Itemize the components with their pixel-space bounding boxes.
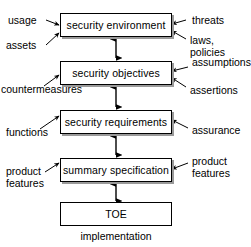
- connector-assets-to-environment: [46, 33, 59, 45]
- box-security-requirements[interactable]: security requirements: [60, 110, 172, 134]
- box-security-objectives[interactable]: security objectives: [60, 61, 172, 85]
- connector-threats-to-environment: [172, 20, 186, 24]
- box-toe[interactable]: TOE: [60, 202, 172, 226]
- box-security-requirements-label: security requirements: [65, 117, 167, 128]
- connector-laws-policies-to-environment: [172, 31, 186, 39]
- label-product-features-left: product features: [6, 165, 44, 189]
- connector-product-features-right-to-summary: [172, 163, 188, 169]
- box-summary-specification[interactable]: summary specification: [60, 158, 172, 182]
- label-implementation: implementation: [60, 230, 172, 242]
- label-threats: threats: [192, 14, 224, 26]
- box-security-objectives-label: security objectives: [72, 68, 160, 79]
- label-laws-policies: laws, policies: [190, 34, 251, 58]
- label-countermeasures: countermeasures: [1, 83, 82, 95]
- label-functions: functions: [6, 126, 48, 138]
- diagram-canvas: security environment security objectives…: [0, 0, 251, 247]
- label-assumptions: assumptions: [192, 56, 251, 68]
- connector-usage-to-environment: [46, 20, 59, 25]
- label-product-features-right: product features: [192, 155, 230, 179]
- box-security-environment-label: security environment: [67, 20, 166, 31]
- label-assets: assets: [6, 39, 36, 51]
- box-toe-label: TOE: [105, 209, 127, 220]
- connector-assurance-to-requirements: [172, 120, 188, 128]
- connector-product-features-left-to-summary: [45, 163, 59, 172]
- box-security-environment[interactable]: security environment: [60, 13, 172, 37]
- label-assertions: assertions: [190, 84, 238, 96]
- box-summary-specification-label: summary specification: [63, 165, 169, 176]
- label-usage: usage: [8, 14, 37, 26]
- connector-assumptions-to-objectives: [172, 67, 188, 71]
- label-assurance: assurance: [192, 124, 240, 136]
- connector-assertions-to-objectives: [172, 78, 186, 87]
